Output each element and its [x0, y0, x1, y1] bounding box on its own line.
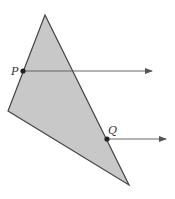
point-p	[20, 68, 25, 73]
point-q	[104, 136, 109, 141]
shaded-triangle	[8, 15, 129, 185]
label-q: Q	[108, 124, 117, 137]
diagram-canvas: P Q	[0, 0, 175, 199]
label-p: P	[10, 65, 19, 78]
